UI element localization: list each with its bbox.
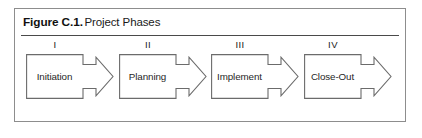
phase-step: II Planning	[119, 39, 207, 119]
phase-numeral: I	[26, 39, 84, 51]
figure-caption-label: Figure C.1.	[23, 15, 83, 29]
phase-chevron-shape	[26, 54, 114, 99]
phase-numeral: IV	[304, 39, 362, 51]
phase-step: I Initiation	[26, 39, 114, 119]
figure-frame: Figure C.1.Project Phases I Initiation I…	[14, 8, 406, 122]
process-flow-diagram: I Initiation II Planning III	[15, 39, 407, 121]
phase-chevron-shape	[304, 54, 392, 99]
phase-chevron-shape	[119, 54, 207, 99]
phase-numeral: II	[119, 39, 177, 51]
caption-divider-rule	[21, 35, 399, 36]
phase-chevron-shape	[211, 54, 299, 99]
phase-numeral: III	[211, 39, 269, 51]
phase-step: III Implement	[211, 39, 299, 119]
figure-caption: Figure C.1.Project Phases	[23, 15, 160, 29]
phase-step: IV Close-Out	[304, 39, 392, 119]
figure-caption-title: Project Phases	[83, 16, 160, 28]
